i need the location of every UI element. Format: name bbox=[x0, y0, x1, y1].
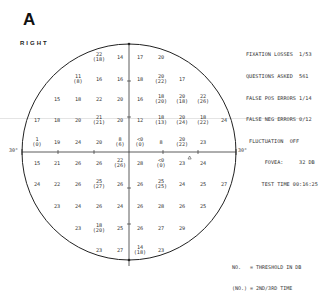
threshold-value: 22 bbox=[96, 97, 102, 102]
threshold-db: 27 bbox=[117, 248, 123, 253]
threshold-value: 26 bbox=[96, 161, 102, 166]
threshold-value: 21(21) bbox=[93, 115, 106, 125]
threshold-value: <0(0) bbox=[156, 158, 165, 168]
threshold-value: 1(0) bbox=[32, 137, 41, 147]
legend-repeat: (NO.) = 2ND/3RD TIME bbox=[232, 285, 301, 292]
threshold-db: 26 bbox=[137, 226, 143, 231]
questions-asked: QUESTIONS ASKED 561 bbox=[246, 73, 318, 80]
threshold-value: 26 bbox=[137, 204, 143, 209]
blind-spot-marker-icon bbox=[188, 156, 191, 159]
threshold-value: 14(18) bbox=[134, 245, 147, 255]
threshold-value: 27 bbox=[221, 182, 227, 187]
repeat-threshold-db: (0) bbox=[32, 142, 41, 147]
threshold-db: 26 bbox=[96, 161, 102, 166]
threshold-value: 17 bbox=[34, 118, 40, 123]
threshold-value: 23 bbox=[96, 248, 102, 253]
threshold-db: 20 bbox=[117, 118, 123, 123]
threshold-value: 22(18) bbox=[93, 52, 106, 62]
threshold-value: 25(27) bbox=[93, 179, 106, 189]
threshold-db: 26 bbox=[75, 182, 81, 187]
threshold-db: 17 bbox=[34, 118, 40, 123]
threshold-value: 18 bbox=[75, 97, 81, 102]
threshold-value: 16 bbox=[96, 77, 102, 82]
threshold-value: 11(8) bbox=[73, 74, 82, 84]
threshold-value: 23 bbox=[200, 140, 206, 145]
false-neg-errors: FALSE NEG ERRORS 0/12 bbox=[246, 116, 318, 123]
threshold-value: 20 bbox=[96, 140, 102, 145]
threshold-value: 17 bbox=[179, 77, 185, 82]
repeat-threshold-db: (20) bbox=[155, 99, 168, 104]
test-time: TEST TIME 00:16:25 bbox=[246, 181, 318, 188]
threshold-db: 28 bbox=[137, 161, 143, 166]
threshold-value: 24 bbox=[117, 204, 123, 209]
threshold-db: 24 bbox=[179, 182, 185, 187]
threshold-value: 28 bbox=[158, 204, 164, 209]
threshold-db: 24 bbox=[34, 182, 40, 187]
threshold-value: 17 bbox=[137, 55, 143, 60]
threshold-value: 14 bbox=[117, 55, 123, 60]
threshold-db: 27 bbox=[221, 182, 227, 187]
threshold-value: 20(22) bbox=[176, 137, 189, 147]
threshold-db: 18 bbox=[137, 77, 143, 82]
threshold-db: 18 bbox=[75, 97, 81, 102]
threshold-value: 18(13) bbox=[155, 115, 168, 125]
threshold-db: 15 bbox=[54, 97, 60, 102]
repeat-threshold-db: (0) bbox=[135, 142, 144, 147]
threshold-value: 19 bbox=[54, 140, 60, 145]
threshold-value: 8(6) bbox=[115, 137, 124, 147]
threshold-db: 23 bbox=[75, 226, 81, 231]
repeat-threshold-db: (22) bbox=[197, 120, 210, 125]
threshold-value: <0(0) bbox=[135, 137, 144, 147]
threshold-value: 16 bbox=[137, 97, 143, 102]
bottom-marker-icon bbox=[128, 259, 131, 262]
repeat-threshold-db: (8) bbox=[73, 79, 82, 84]
fixation-losses: FIXATION LOSSES 1/53 bbox=[246, 51, 318, 58]
threshold-value: 15 bbox=[34, 161, 40, 166]
repeat-threshold-db: (24) bbox=[176, 120, 189, 125]
false-pos-errors: FALSE POS ERRORS 1/14 bbox=[246, 95, 318, 102]
threshold-value: 23 bbox=[54, 204, 60, 209]
threshold-db: 26 bbox=[179, 204, 185, 209]
threshold-value: 16 bbox=[117, 77, 123, 82]
fovea: FOVEA: 32 DB bbox=[246, 159, 318, 166]
threshold-db: 26 bbox=[96, 204, 102, 209]
threshold-value: 26 bbox=[75, 161, 81, 166]
threshold-value: 20(24) bbox=[176, 115, 189, 125]
threshold-db: 20 bbox=[117, 97, 123, 102]
threshold-value: 18 bbox=[137, 77, 143, 82]
threshold-value: 24 bbox=[200, 161, 206, 166]
threshold-db: 26 bbox=[137, 182, 143, 187]
threshold-db: 21 bbox=[54, 161, 60, 166]
threshold-db: 24 bbox=[75, 140, 81, 145]
threshold-value: 23 bbox=[179, 161, 185, 166]
threshold-db: 22 bbox=[96, 97, 102, 102]
repeat-threshold-db: (6) bbox=[115, 142, 124, 147]
threshold-value: 26 bbox=[75, 182, 81, 187]
threshold-db: 26 bbox=[137, 204, 143, 209]
repeat-threshold-db: (22) bbox=[176, 142, 189, 147]
threshold-value: 24 bbox=[221, 118, 227, 123]
threshold-value: 20 bbox=[117, 118, 123, 123]
threshold-value: 25(25) bbox=[155, 179, 168, 189]
threshold-value: 21 bbox=[54, 161, 60, 166]
threshold-value: 22(26) bbox=[114, 158, 127, 168]
threshold-db: 16 bbox=[117, 77, 123, 82]
threshold-db: 24 bbox=[221, 118, 227, 123]
threshold-db: 24 bbox=[200, 161, 206, 166]
threshold-db: 17 bbox=[137, 55, 143, 60]
repeat-threshold-db: (26) bbox=[114, 163, 127, 168]
threshold-value: 24 bbox=[75, 204, 81, 209]
threshold-db: 20 bbox=[75, 118, 81, 123]
threshold-db: 12 bbox=[137, 118, 143, 123]
threshold-db: 22 bbox=[54, 182, 60, 187]
threshold-db: 25 bbox=[200, 182, 206, 187]
threshold-value: 28 bbox=[137, 161, 143, 166]
threshold-value: 20 bbox=[158, 55, 164, 60]
threshold-value: 26 bbox=[179, 204, 185, 209]
threshold-value: 23 bbox=[75, 226, 81, 231]
threshold-value: 18(20) bbox=[155, 94, 168, 104]
threshold-db: 28 bbox=[158, 204, 164, 209]
threshold-db: 16 bbox=[96, 77, 102, 82]
threshold-db: 17 bbox=[179, 77, 185, 82]
repeat-threshold-db: (18) bbox=[93, 57, 106, 62]
